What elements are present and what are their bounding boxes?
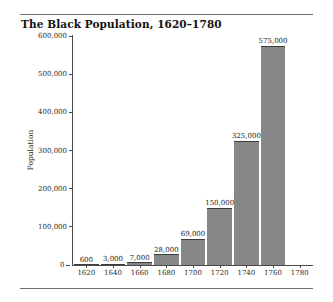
y-axis-tick-label: 600,000	[38, 32, 69, 40]
y-axis-tick-600000: 600,000	[38, 32, 73, 40]
x-axis-tick-label-1720: 1720	[211, 269, 229, 277]
bar-value-label: 575,000	[259, 37, 288, 45]
bar-1720[interactable]: 150,000	[207, 208, 232, 265]
bar-value-label: 69,000	[181, 230, 206, 238]
x-axis-tick-label-1660: 1660	[131, 269, 149, 277]
x-axis-tick-label-1780: 1780	[291, 269, 309, 277]
y-axis-tick-0-mark	[66, 265, 70, 266]
bar-slot-1640: 3,0001640	[100, 36, 127, 265]
y-axis-tick-0-label: 0	[60, 261, 64, 269]
x-axis-tick-label-1680: 1680	[157, 269, 175, 277]
y-axis-tick-label: 100,000	[38, 223, 69, 231]
x-axis-tick-mark	[86, 265, 87, 268]
x-axis-tick-mark	[140, 265, 141, 268]
y-axis-tick-label: 400,000	[38, 108, 69, 116]
y-axis-tick-300000: 300,000	[38, 147, 73, 155]
x-axis-tick-label-1760: 1760	[264, 269, 282, 277]
bar-value-label: 150,000	[205, 199, 234, 207]
bar-slot-1740: 325,0001740	[233, 36, 260, 265]
bar-1700[interactable]: 69,000	[181, 239, 206, 265]
x-axis-tick-mark	[193, 265, 194, 268]
y-axis-tick-100000: 100,000	[38, 223, 73, 231]
x-axis-tick-mark	[246, 265, 247, 268]
x-axis-tick-label-1640: 1640	[104, 269, 122, 277]
bar-value-label: 325,000	[232, 132, 261, 140]
y-axis-tick-200000: 200,000	[38, 185, 73, 193]
y-axis-tick-label: 300,000	[38, 147, 69, 155]
bar-slot-1700: 69,0001700	[180, 36, 207, 265]
plot-area: 100,000200,000300,000400,000500,000600,0…	[73, 36, 313, 265]
bar-1740[interactable]: 325,000	[234, 141, 259, 265]
bar-slot-1620: 6001620	[73, 36, 100, 265]
bar-slot-1680: 28,0001680	[153, 36, 180, 265]
x-axis-tick-mark	[300, 265, 301, 268]
y-axis-tick-400000: 400,000	[38, 108, 73, 116]
x-axis-tick-mark	[273, 265, 274, 268]
bottom-divider-rule	[20, 288, 313, 289]
x-axis-tick-label-1740: 1740	[237, 269, 255, 277]
bar-slot-1660: 7,0001660	[126, 36, 153, 265]
y-axis-tick-500000: 500,000	[38, 70, 73, 78]
x-axis-tick-mark	[113, 265, 114, 268]
y-axis-title: Population	[26, 130, 35, 171]
bar-series: 60016203,00016407,000166028,000168069,00…	[73, 36, 313, 265]
bar-value-label: 7,000	[130, 254, 150, 262]
bar-1680[interactable]: 28,000	[154, 254, 179, 265]
y-axis-tick-label: 500,000	[38, 70, 69, 78]
top-divider-rule	[20, 14, 313, 15]
x-axis-tick-label-1700: 1700	[184, 269, 202, 277]
bar-slot-1780: 1780	[286, 36, 313, 265]
bar-slot-1720: 150,0001720	[206, 36, 233, 265]
bar-1760[interactable]: 575,000	[261, 46, 286, 265]
bar-value-label: 600	[80, 256, 93, 264]
y-axis-tick-0: 0	[60, 261, 70, 269]
x-axis-tick-mark	[166, 265, 167, 268]
x-axis-tick-label-1620: 1620	[77, 269, 95, 277]
bar-value-label: 28,000	[154, 246, 179, 254]
y-axis-tick-label: 200,000	[38, 185, 69, 193]
bar-slot-1760: 575,0001760	[260, 36, 287, 265]
bar-value-label: 3,000	[103, 255, 123, 263]
page-title: The Black Population, 1620–1780	[21, 18, 222, 30]
x-axis-tick-mark	[220, 265, 221, 268]
